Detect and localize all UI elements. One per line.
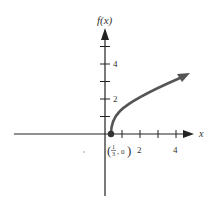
point-label: ( 1 3 , 0 ) [107, 143, 131, 158]
svg-text:(: ( [107, 143, 111, 158]
svg-text:1: 1 [112, 144, 115, 150]
speck [83, 151, 85, 153]
svg-text:): ) [127, 143, 131, 158]
svg-text:,: , [117, 147, 119, 156]
x-tick-label-4: 4 [173, 145, 178, 155]
y-tick-label-2: 2 [113, 94, 118, 104]
y-tick-label-4: 4 [113, 59, 118, 69]
y-axis-label: f(x) [97, 14, 113, 27]
x-axis-label: x [198, 128, 204, 139]
start-point-marker [108, 131, 114, 137]
x-axis-arrow-icon [183, 130, 194, 138]
x-tick-label-2: 2 [137, 145, 142, 155]
function-graph: f(x) x 2 4 2 4 ( 1 3 , 0 ) [0, 0, 209, 205]
function-curve [111, 78, 180, 134]
svg-text:3: 3 [112, 151, 115, 157]
svg-text:0: 0 [121, 148, 125, 156]
y-axis-arrow-icon [101, 28, 109, 40]
